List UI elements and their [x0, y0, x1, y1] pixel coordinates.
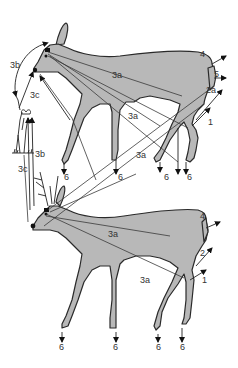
upper-deer-ear: [56, 23, 68, 45]
label-lower-3b: 3b: [35, 149, 45, 159]
lower-deer-antlers: [34, 172, 58, 206]
label-upper-4: 4: [200, 49, 205, 59]
label-lower-1: 1: [202, 275, 207, 285]
label-lower-6-hind2: 6: [180, 342, 185, 352]
label-upper-6-mid: 6: [118, 172, 123, 182]
upper-deer-head-marker: [45, 48, 50, 52]
label-upper-6-hind1: 6: [164, 172, 169, 182]
label-lower-4: 4: [200, 211, 205, 221]
label-lower-6-hind1: 6: [156, 342, 161, 352]
label-upper-2a: 2a: [206, 85, 216, 95]
label-upper-1: 1: [208, 117, 213, 127]
label-lower-6-front1: 6: [59, 342, 64, 352]
label-upper-3a-body: 3a: [112, 70, 122, 80]
deer-diagram: 3b 3c 3a 3a 3a 4 5 2a 1 6 6 6 6 3b 3c 3a…: [0, 0, 238, 368]
upper-deer: [33, 23, 216, 164]
label-upper-6-hind2: 6: [187, 172, 192, 182]
label-lower-3a-body: 3a: [108, 229, 118, 239]
upper-deer-nose: [33, 68, 37, 72]
label-lower-6-front2: 6: [113, 342, 118, 352]
label-lower-3a-leg: 3a: [140, 275, 150, 285]
label-upper-6-front: 6: [64, 172, 69, 182]
label-lower-3c: 3c: [18, 164, 28, 174]
upper-deer-eye: [45, 55, 48, 58]
label-lower-2: 2: [200, 248, 205, 258]
label-upper-3a-lower: 3a: [136, 150, 146, 160]
label-upper-3a-mid: 3a: [128, 111, 138, 121]
lower-deer: [31, 172, 208, 330]
label-upper-5: 5: [214, 69, 219, 79]
label-upper-3c: 3c: [30, 90, 40, 100]
plant: [12, 96, 34, 153]
lower-deer-body: [33, 206, 208, 330]
plant-leaf: [28, 118, 32, 124]
label-upper-3b: 3b: [10, 60, 20, 70]
lower-deer-nose: [31, 224, 36, 229]
